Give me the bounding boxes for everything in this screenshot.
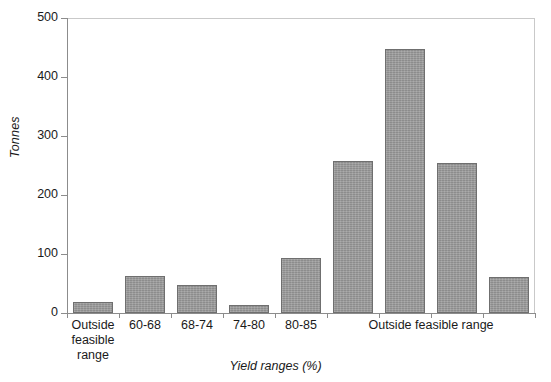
x-label-line-2: feasible [58, 333, 128, 348]
y-tick-500 [61, 18, 68, 19]
y-tick-300 [61, 136, 68, 137]
x-label-outside-feasible-range-right: Outside feasible range [327, 318, 535, 333]
y-tick-label-100: 100 [0, 246, 58, 260]
bar-chart: Tonnes 500 400 300 200 100 0 Outside [0, 0, 551, 382]
y-tick-label-400: 400 [0, 69, 58, 83]
y-tick-label-200: 200 [0, 187, 58, 201]
bar-3 [229, 305, 269, 313]
bar-4 [281, 258, 321, 313]
y-tick-label-0: 0 [0, 305, 58, 319]
x-axis-title: Yield ranges (%) [0, 359, 551, 373]
bar-2 [177, 285, 217, 313]
y-tick-200 [61, 195, 68, 196]
bar-5 [333, 161, 373, 313]
x-label-80-85: 80-85 [266, 318, 336, 333]
bar-7 [437, 163, 477, 313]
bar-1 [125, 276, 165, 313]
bar-0 [73, 302, 113, 313]
y-tick-400 [61, 77, 68, 78]
y-tick-label-300: 300 [0, 128, 58, 142]
bar-8 [489, 277, 529, 313]
y-tick-100 [61, 254, 68, 255]
x-axis-line [67, 313, 535, 314]
bar-6 [385, 49, 425, 313]
y-tick-label-500: 500 [0, 10, 58, 24]
x-tick-9 [535, 313, 536, 318]
